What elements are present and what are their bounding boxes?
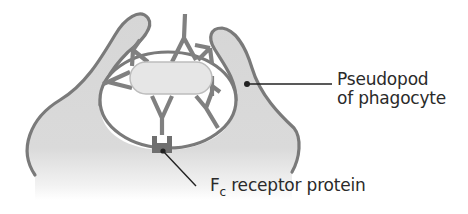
pseudopod-leader-dot	[244, 81, 250, 87]
phagocyte-cell	[27, 14, 300, 200]
bacterium	[130, 62, 212, 94]
fc-receptor-left-prong	[152, 136, 157, 144]
pseudopod-label-line1: Pseudopod	[337, 70, 446, 89]
fc-label-main: F	[210, 175, 220, 195]
fc-receptor-right-prong	[167, 136, 172, 144]
pseudopod-label: Pseudopod of phagocyte	[337, 70, 446, 108]
fc-leader-dot	[160, 148, 165, 153]
fc-label-rest: receptor protein	[226, 175, 366, 195]
fc-receptor-label: Fc receptor protein	[210, 176, 366, 195]
pseudopod-label-line2: of phagocyte	[337, 89, 446, 108]
